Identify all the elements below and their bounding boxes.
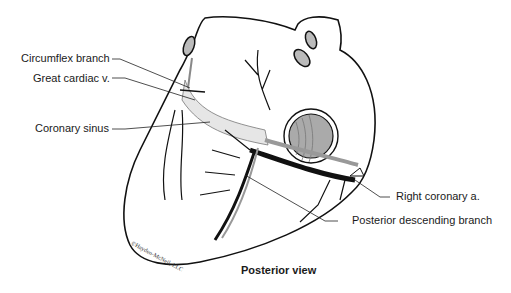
label-coronary-sinus: Coronary sinus <box>35 122 109 135</box>
label-posterior-descending-branch: Posterior descending branch <box>352 214 492 227</box>
diagram-caption: Posterior view <box>241 264 316 276</box>
label-circumflex-branch: Circumflex branch <box>21 52 110 65</box>
label-great-cardiac-vein: Great cardiac v. <box>33 72 110 85</box>
heart-illustration <box>0 0 511 293</box>
label-right-coronary-artery: Right coronary a. <box>396 190 480 203</box>
